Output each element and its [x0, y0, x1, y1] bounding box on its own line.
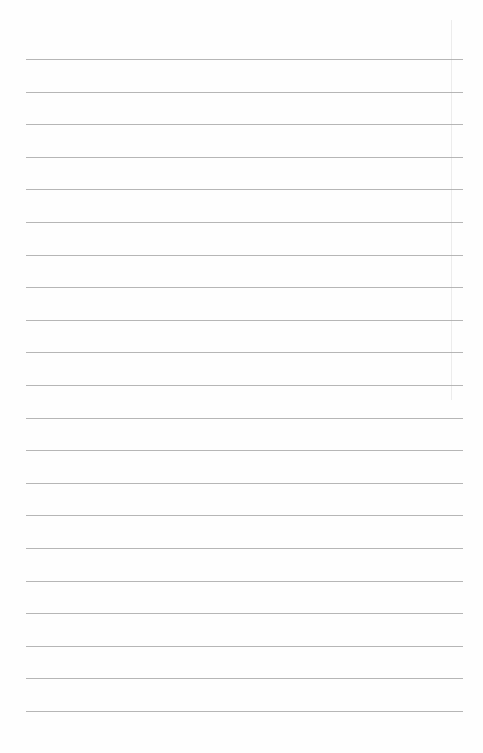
ruled-line: [26, 450, 463, 451]
ruled-line: [26, 320, 463, 321]
ruled-line: [26, 515, 463, 516]
ruled-line: [26, 255, 463, 256]
ruled-line: [26, 483, 463, 484]
ruled-line: [26, 385, 463, 386]
faint-margin-line: [451, 20, 452, 400]
ruled-line: [26, 287, 463, 288]
ruled-line: [26, 124, 463, 125]
ruled-line: [26, 678, 463, 679]
ruled-line: [26, 92, 463, 93]
ruled-line: [26, 157, 463, 158]
ruled-line: [26, 189, 463, 190]
ruled-line: [26, 548, 463, 549]
ruled-line: [26, 418, 463, 419]
ruled-line: [26, 352, 463, 353]
ruled-line: [26, 581, 463, 582]
ruled-line: [26, 613, 463, 614]
ruled-line: [26, 646, 463, 647]
ruled-line: [26, 711, 463, 712]
ruled-line: [26, 222, 463, 223]
lined-paper-page: [0, 0, 483, 753]
ruled-line: [26, 59, 463, 60]
